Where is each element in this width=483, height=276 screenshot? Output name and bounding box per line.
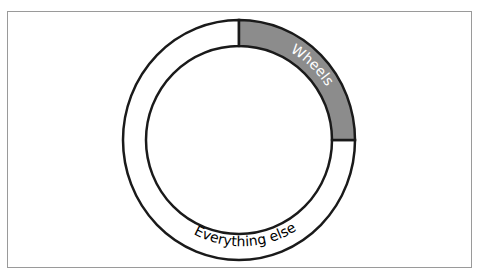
slice-wheels [239, 20, 355, 140]
donut-chart: Wheels Everything else [0, 0, 483, 276]
